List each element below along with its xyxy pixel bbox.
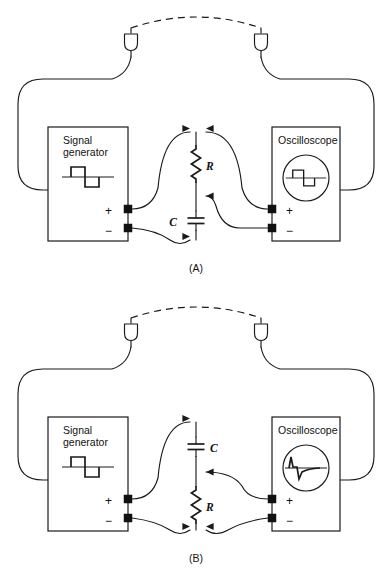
lead-siggen-negative-a bbox=[132, 228, 190, 244]
ground-connector-left-b bbox=[125, 318, 138, 347]
resistor-label: R bbox=[205, 501, 214, 513]
capacitor-label: C bbox=[169, 216, 177, 228]
oscilloscope-label: Oscilloscope bbox=[278, 424, 338, 436]
lead-siggen-negative-b bbox=[132, 518, 190, 534]
oscilloscope-positive-terminal[interactable] bbox=[268, 495, 276, 503]
signal-generator-label-line1: Signal bbox=[63, 134, 92, 146]
signal-generator-a[interactable]: Signal generator + − bbox=[48, 127, 132, 241]
oscilloscope-negative-terminal[interactable] bbox=[268, 514, 276, 522]
signal-generator-negative-terminal[interactable] bbox=[124, 514, 132, 522]
resistor-label: R bbox=[205, 160, 214, 172]
signal-generator-label-line2: generator bbox=[63, 146, 108, 158]
rc-circuit-figure: Signal generator + − Oscilloscope + − bbox=[0, 0, 392, 573]
ground-shield-link-a bbox=[131, 17, 261, 28]
signal-generator-b[interactable]: Signal generator + − bbox=[48, 417, 132, 531]
oscilloscope-a[interactable]: Oscilloscope + − bbox=[268, 127, 340, 241]
cr-network-b: C R bbox=[188, 422, 219, 530]
ground-connector-left-a bbox=[125, 28, 138, 57]
resistor-symbol bbox=[191, 145, 200, 183]
lead-siggen-positive-a bbox=[132, 125, 190, 209]
oscilloscope-negative-terminal[interactable] bbox=[268, 224, 276, 232]
signal-generator-negative-terminal[interactable] bbox=[124, 224, 132, 232]
oscilloscope-b[interactable]: Oscilloscope + − bbox=[268, 417, 340, 531]
lead-scope-negative-a bbox=[206, 192, 268, 228]
resistor-symbol bbox=[191, 486, 200, 524]
oscilloscope-label: Oscilloscope bbox=[278, 134, 338, 146]
lead-scope-positive-b bbox=[206, 468, 268, 499]
oscilloscope-positive-label: + bbox=[286, 494, 293, 508]
oscilloscope-positive-terminal[interactable] bbox=[268, 205, 276, 213]
ground-connector-right-b bbox=[255, 318, 268, 347]
signal-generator-positive-label: + bbox=[105, 204, 112, 218]
signal-generator-negative-label: − bbox=[105, 224, 112, 238]
ground-shield-link-b bbox=[131, 307, 261, 318]
signal-generator-label-line2: generator bbox=[63, 436, 108, 448]
oscilloscope-negative-label: − bbox=[286, 514, 293, 528]
panel-a-caption: (A) bbox=[189, 262, 203, 274]
oscilloscope-positive-label: + bbox=[286, 204, 293, 218]
capacitor-symbol bbox=[188, 211, 205, 231]
signal-generator-positive-terminal[interactable] bbox=[124, 205, 132, 213]
panel-a: Signal generator + − Oscilloscope + − bbox=[18, 17, 374, 274]
signal-generator-negative-label: − bbox=[105, 514, 112, 528]
lead-siggen-positive-b bbox=[132, 415, 190, 499]
signal-generator-label-line1: Signal bbox=[63, 424, 92, 436]
panel-b-caption: (B) bbox=[189, 552, 203, 564]
oscilloscope-negative-label: − bbox=[286, 224, 293, 238]
capacitor-symbol bbox=[188, 437, 205, 457]
capacitor-label: C bbox=[210, 442, 218, 454]
panel-b: Signal generator + − Oscilloscope + − bbox=[18, 307, 374, 564]
rc-network-a: R C bbox=[169, 132, 214, 240]
ground-connector-right-a bbox=[255, 28, 268, 57]
signal-generator-positive-label: + bbox=[105, 494, 112, 508]
lead-scope-positive-a bbox=[206, 125, 268, 209]
lead-scope-negative-b bbox=[206, 518, 268, 534]
signal-generator-positive-terminal[interactable] bbox=[124, 495, 132, 503]
